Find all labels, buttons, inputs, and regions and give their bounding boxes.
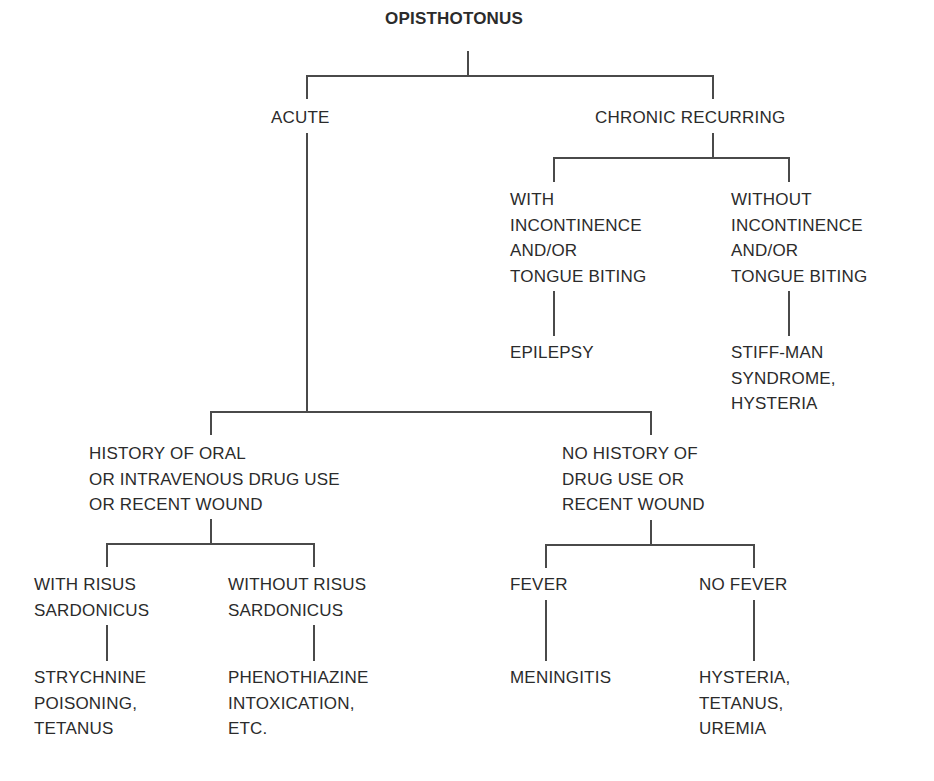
connector-root-branch xyxy=(306,75,713,77)
connector-acute-branch xyxy=(210,411,651,413)
connector-to-with-incontinence xyxy=(553,157,555,182)
node-with-incontinence: WITH INCONTINENCE AND/OR TONGUE BITING xyxy=(510,187,646,289)
node-epilepsy: EPILEPSY xyxy=(510,340,594,366)
connector-to-no-history xyxy=(650,411,652,435)
node-with-risus: WITH RISUS SARDONICUS xyxy=(34,572,149,623)
connector-history-branch xyxy=(106,543,314,545)
connector-to-chronic xyxy=(712,75,714,99)
node-stiff-man-syndrome: STIFF-MAN SYNDROME, HYSTERIA xyxy=(731,340,836,417)
node-acute: ACUTE xyxy=(271,105,330,131)
connector-to-with-risus xyxy=(106,543,108,567)
connector-to-history xyxy=(210,411,212,435)
node-chronic-recurring: CHRONIC RECURRING xyxy=(595,105,785,131)
connector-chronic-branch xyxy=(553,157,789,159)
connector-no-history-stem xyxy=(650,520,652,545)
connector-no-history-branch xyxy=(545,544,754,546)
connector-chronic-stem xyxy=(712,133,714,158)
node-without-risus: WITHOUT RISUS SARDONICUS xyxy=(228,572,366,623)
connector-to-hysteria-tetanus xyxy=(753,600,755,661)
connector-to-epilepsy xyxy=(553,291,555,336)
connector-to-without-risus xyxy=(313,543,315,567)
node-hysteria-tetanus-uremia: HYSTERIA, TETANUS, UREMIA xyxy=(699,665,791,742)
connector-to-meningitis xyxy=(545,600,547,661)
connector-to-fever xyxy=(545,544,547,568)
node-no-fever: NO FEVER xyxy=(699,572,788,598)
root-opisthotonus: OPISTHOTONUS xyxy=(385,6,523,32)
connector-to-without-incontinence xyxy=(788,157,790,182)
node-history-drug-use: HISTORY OF ORAL OR INTRAVENOUS DRUG USE … xyxy=(89,441,340,518)
node-fever: FEVER xyxy=(510,572,568,598)
connector-root-stem xyxy=(467,51,469,76)
node-meningitis: MENINGITIS xyxy=(510,665,611,691)
connector-to-stiff-man xyxy=(788,291,790,336)
connector-acute-stem xyxy=(306,133,308,412)
connector-to-acute xyxy=(306,75,308,99)
connector-to-phenothiazine xyxy=(313,625,315,661)
node-without-incontinence: WITHOUT INCONTINENCE AND/OR TONGUE BITIN… xyxy=(731,187,867,289)
connector-history-stem xyxy=(210,519,212,544)
node-strychnine: STRYCHNINE POISONING, TETANUS xyxy=(34,665,146,742)
connector-to-no-fever xyxy=(753,544,755,568)
node-no-history-drug-use: NO HISTORY OF DRUG USE OR RECENT WOUND xyxy=(562,441,705,518)
connector-to-strychnine xyxy=(106,625,108,661)
node-phenothiazine: PHENOTHIAZINE INTOXICATION, ETC. xyxy=(228,665,369,742)
